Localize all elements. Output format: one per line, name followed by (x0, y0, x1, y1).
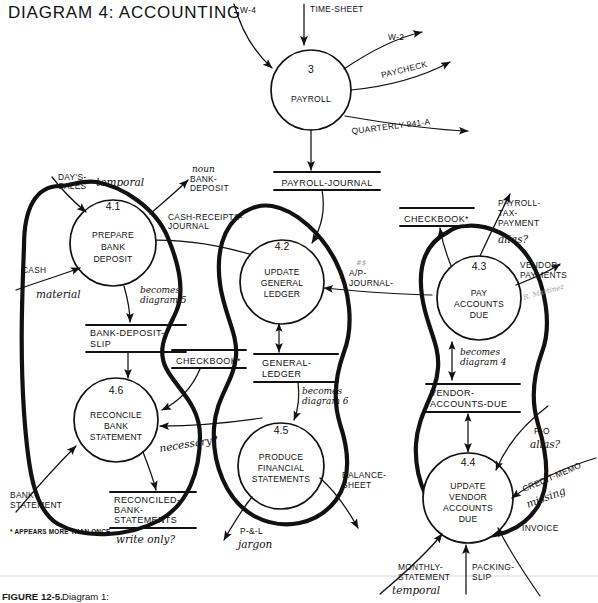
figure-caption-text: Diagram 1: (62, 591, 109, 602)
annotation-becomes-d5-2: diagram 5 (140, 295, 187, 305)
annotation-write-only: write only? (116, 533, 176, 545)
process-41-number: 4.1 (106, 200, 121, 212)
annotation-temporal-2: temporal (392, 584, 440, 596)
flow-label-bank-statement-1: BANK- (10, 490, 37, 500)
flow-label-vendor-payments-2: PAYMENTS (520, 270, 567, 280)
flow-label-ap-journal-2: JOURNAL- (349, 278, 393, 288)
page-title: DIAGRAM 4: ACCOUNTING (8, 3, 241, 22)
process-42-label-1: UPDATE (264, 267, 299, 277)
store-vendor-accounts-due-label-2: ACCOUNTS-DUE (430, 399, 507, 409)
flow-label-bank-statement-2: STATEMENT (10, 500, 62, 510)
flow-label-payroll-tax-3: PAYMENT (498, 218, 539, 228)
flow-line-bank-deposit (150, 180, 188, 214)
store-checkbook-right-label: CHECKBOOK* (404, 214, 469, 224)
flow-label-payroll-tax-1: PAYROLL- (498, 198, 541, 208)
flow-label-balance-sheet-1: BALANCE- (342, 470, 386, 480)
process-43-label-1: PAY (471, 288, 488, 298)
flow-label-pl: P-&-L (240, 526, 263, 536)
store-reconciled-label-2: BANK- (114, 505, 144, 515)
process-41-label-2: BANK (101, 242, 125, 252)
flow-label-cash: CASH (22, 265, 46, 275)
flow-label-days-sales-2: SALES (58, 181, 87, 191)
flow-label-paycheck: PAYCHECK (380, 59, 428, 80)
flow-label-invoice: INVOICE (522, 523, 559, 533)
flow-label-w2: W-2 (388, 32, 404, 42)
process-43-label-3: DUE (470, 310, 489, 320)
process-45-label-1: PRODUCE (259, 452, 303, 462)
flow-label-monthly-statement-2: STATEMENT (398, 572, 450, 582)
flow-label-po: P-O (534, 426, 550, 436)
store-reconciled-label-1: RECONCILED- (114, 495, 180, 505)
process-46-label-3: STATEMENT (90, 432, 143, 442)
annotation-material: material (36, 288, 81, 300)
process-41-label-3: DEPOSIT (93, 254, 133, 264)
dfd-svg: DIAGRAM 4: ACCOUNTING 3 PAYROLL W-4 TIME… (0, 0, 598, 603)
flow-label-w4: W-4 (240, 5, 256, 15)
store-general-ledger[interactable]: GENERAL- LEDGER (254, 354, 338, 382)
flow-line-ap-journal (324, 288, 432, 295)
process-3-number: 3 (308, 63, 314, 75)
process-46-label-1: RECONCILE (90, 410, 142, 420)
process-44-label-3: ACCOUNTS (443, 503, 493, 513)
store-bank-deposit-slip[interactable]: BANK-DEPOSIT- SLIP (86, 325, 186, 352)
annotation-becomes-d6-2: diagram 6 (302, 396, 349, 406)
annotation-becomes-d6-1: becomes (302, 386, 342, 396)
process-43-number: 4.3 (472, 260, 487, 272)
diagram-canvas: DIAGRAM 4: ACCOUNTING 3 PAYROLL W-4 TIME… (0, 0, 598, 603)
process-43-label-2: ACCOUNTS (454, 299, 504, 309)
flow-label-time-sheet: TIME-SHEET (310, 4, 364, 14)
flow-label-vendor-payments-1: VENDOR- (520, 260, 561, 270)
process-3-label: PAYROLL (291, 94, 331, 104)
annotation-becomes-d4-2: diagram 4 (460, 357, 507, 367)
annotation-alias-2: alias? (530, 438, 561, 450)
annotation-noun: noun (192, 164, 215, 174)
flow-label-ap-journal-1: A/P- (349, 268, 367, 278)
annotation-alias-1: alias? (498, 233, 529, 245)
flow-line-46-to-reconciled (143, 452, 156, 490)
store-payroll-journal[interactable]: PAYROLL-JOURNAL (274, 172, 380, 190)
annotation-jargon: jargon (236, 538, 273, 550)
store-vendor-accounts-due[interactable]: VENDOR- ACCOUNTS-DUE (426, 384, 520, 412)
process-45-label-3: STATEMENTS (252, 474, 311, 484)
process-42-label-2: GENERAL (261, 278, 303, 288)
store-bank-deposit-slip-label-2: SLIP (90, 339, 111, 349)
store-payroll-journal-label: PAYROLL-JOURNAL (281, 178, 372, 188)
flow-label-cash-receipts-2: JOURNAL (168, 221, 209, 231)
process-46-number: 4.6 (109, 384, 124, 396)
figure-caption-label: FIGURE 12-5. (2, 591, 63, 602)
flow-line-necessary-to-46 (160, 418, 262, 426)
flow-label-packing-slip-1: PACKING- (472, 562, 514, 572)
annotation-becomes-d5-1: becomes (140, 285, 180, 295)
flow-line-41-to-slip (124, 286, 130, 322)
store-vendor-accounts-due-label-1: VENDOR- (430, 388, 474, 398)
flow-label-payroll-tax-2: TAX- (498, 208, 518, 218)
process-46-label-2: BANK (104, 421, 128, 431)
process-circle-3[interactable] (271, 50, 351, 130)
process-45-number: 4.5 (274, 424, 289, 436)
store-bank-deposit-slip-label-1: BANK-DEPOSIT- (90, 328, 165, 338)
annotation-necessary: necessary? (158, 433, 218, 454)
flow-label-monthly-statement-1: MONTHLY- (398, 562, 443, 572)
flow-label-packing-slip-2: SLIP (472, 572, 491, 582)
process-44-number: 4.4 (461, 456, 476, 468)
process-44-label-2: VENDOR (449, 492, 487, 502)
store-reconciled-label-3: STATEMENTS (114, 515, 177, 525)
flow-label-balance-sheet-2: SHEET (342, 480, 371, 490)
process-41-label-1: PREPARE (92, 230, 134, 240)
annotation-becomes-d4-1: becomes (460, 347, 500, 357)
process-44-label-1: UPDATE (450, 481, 485, 491)
process-44-label-4: DUE (459, 514, 478, 524)
annotation-temporal-1: temporal (96, 176, 144, 188)
process-42-label-3: LEDGER (264, 289, 301, 299)
flow-line-ledger-to-45 (294, 382, 299, 420)
store-general-ledger-label-2: LEDGER (262, 369, 302, 379)
flow-label-bank-deposit-2: DEPOSIT (190, 183, 229, 193)
process-42-number: 4.2 (275, 240, 290, 252)
faint-mark-above-ap-journal: #$ (356, 259, 367, 267)
store-general-ledger-label-1: GENERAL- (262, 358, 311, 368)
store-checkbook-left-label: CHECKBOOK* (176, 356, 241, 366)
store-checkbook-right[interactable]: CHECKBOOK* (400, 208, 474, 226)
footnote-appears-more-than-once: * APPEARS MORE THAN ONCE (10, 528, 111, 535)
process-45-label-2: FINANCIAL (258, 463, 305, 473)
